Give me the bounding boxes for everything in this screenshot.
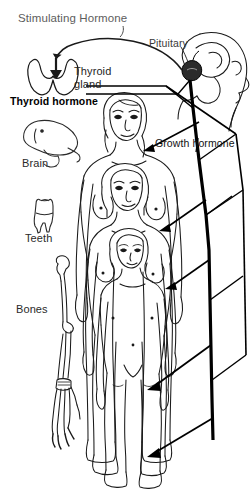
label-thyroid-hormone: Thyroid hormone: [10, 96, 98, 107]
label-thyroid-gland-line2: gland: [74, 79, 101, 91]
label-growth-hormone: Growth hormone: [155, 138, 235, 149]
label-teeth: Teeth: [25, 233, 52, 245]
diagram-illustration: [0, 0, 251, 498]
label-brain: Brain: [22, 158, 48, 170]
label-pituitary: Pituitary: [149, 38, 188, 49]
label-thyroid-gland-line1: Thyroid: [74, 66, 111, 78]
hormone-growth-diagram: Stimulating Hormone Pituitary Thyroid gl…: [0, 0, 251, 498]
label-stimulating-hormone: Stimulating Hormone: [18, 12, 127, 24]
label-bones: Bones: [16, 304, 48, 316]
